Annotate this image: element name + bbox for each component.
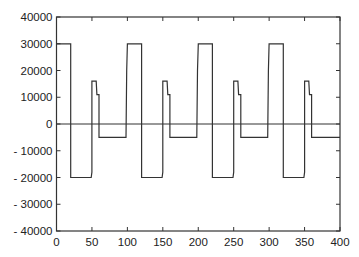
x-tick-label: 400	[330, 236, 349, 248]
y-tick-label: 10000	[21, 91, 53, 103]
y-tick-label: - 10000	[13, 145, 52, 157]
y-tick-label: 40000	[21, 11, 53, 23]
y-tick-label: 30000	[21, 38, 53, 50]
x-tick-label: 100	[118, 236, 137, 248]
x-tick-label: 150	[153, 236, 172, 248]
x-tick-label: 250	[224, 236, 243, 248]
x-tick-label: 50	[86, 236, 99, 248]
chart: 400003000020000100000- 10000- 20000- 300…	[0, 0, 359, 257]
x-tick-label: 300	[260, 236, 279, 248]
y-tick-label: 20000	[21, 65, 53, 77]
y-tick-label: - 30000	[13, 198, 52, 210]
signal-line	[57, 44, 341, 178]
y-tick-label: 0	[46, 118, 52, 130]
x-tick-label: 350	[295, 236, 314, 248]
y-tick-label: - 40000	[13, 225, 52, 237]
x-tick-label: 200	[189, 236, 208, 248]
y-tick-label: - 20000	[13, 172, 52, 184]
x-tick-label: 0	[53, 236, 59, 248]
